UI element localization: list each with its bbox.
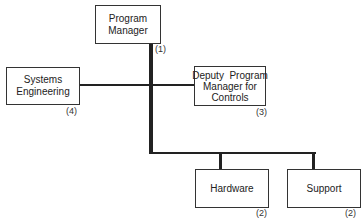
staff-line-horizontal [80,84,194,86]
node-label-line: Engineering [16,86,69,98]
node-number: (3) [256,107,267,117]
node-number: (4) [66,106,77,116]
node-label-line: Program [109,13,147,25]
node-support: Support [287,169,361,208]
node-number: (1) [155,44,166,54]
node-label-line: Systems [24,74,62,86]
node-label-line: Manager [108,25,147,37]
node-hardware: Hardware [195,169,269,208]
node-label-line: Deputy Program [192,70,268,81]
node-program-manager: Program Manager [95,5,161,44]
node-label-line: Manager for [203,81,257,92]
node-number: (2) [345,208,356,218]
node-label: Hardware [210,183,253,195]
node-systems-engineering: Systems Engineering [6,67,80,105]
node-label: Support [306,183,341,195]
node-label-line: Controls [211,92,248,103]
drop-line-hardware [219,152,222,169]
bus-line-horizontal [149,152,316,154]
drop-line-support [312,152,315,169]
node-deputy-program-manager: Deputy Program Manager for Controls [194,66,266,106]
trunk-line [149,44,153,154]
node-number: (2) [256,208,267,218]
